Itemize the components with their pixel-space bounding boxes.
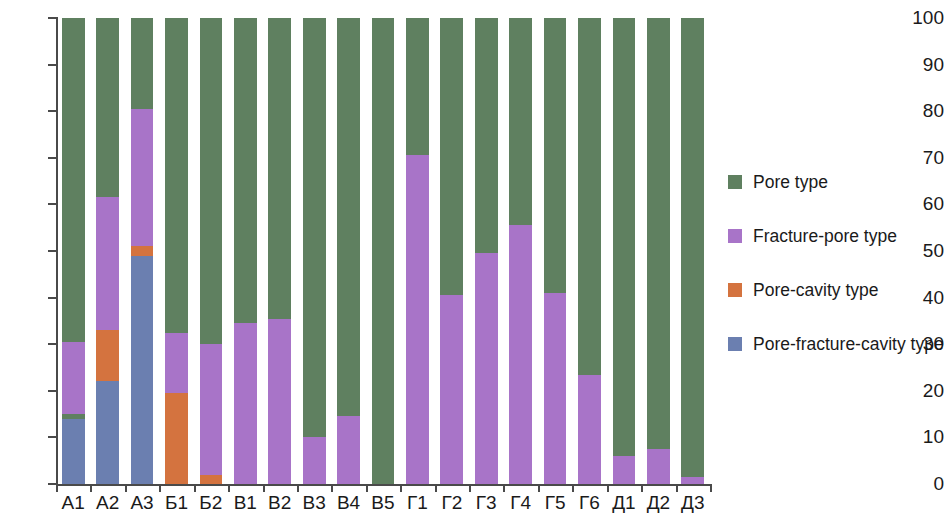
x-axis-tick <box>607 484 609 492</box>
bar-segment-purple <box>131 109 154 246</box>
x-axis-label-А1: А1 <box>56 492 90 514</box>
bar-Г2[interactable] <box>440 18 463 484</box>
bar-segment-green <box>268 18 291 319</box>
bar-Б1[interactable] <box>165 18 188 484</box>
x-axis-tick <box>125 484 127 492</box>
chart-legend: Pore typeFracture-pore typePore-cavity t… <box>728 172 944 354</box>
x-axis-tick <box>228 484 230 492</box>
x-axis-label-В5: В5 <box>366 492 400 514</box>
bar-segment-purple <box>544 293 567 484</box>
bar-А2[interactable] <box>96 18 119 484</box>
bar-segment-purple <box>440 295 463 484</box>
x-axis-tick <box>366 484 368 492</box>
bar-Д1[interactable] <box>613 18 636 484</box>
bar-А1[interactable] <box>62 18 85 484</box>
x-axis-tick <box>641 484 643 492</box>
bar-segment-purple <box>613 456 636 484</box>
legend-swatch-icon <box>728 175 742 189</box>
x-axis-label-А3: А3 <box>125 492 159 514</box>
bar-Д2[interactable] <box>647 18 670 484</box>
x-axis-tick <box>159 484 161 492</box>
x-axis-label-В1: В1 <box>228 492 262 514</box>
y-axis-tick-label: 10 <box>904 427 944 446</box>
bar-В4[interactable] <box>337 18 360 484</box>
x-axis-label-Г3: Г3 <box>469 492 503 514</box>
y-axis-tick-label: 90 <box>904 55 944 74</box>
y-axis-tick-label: 20 <box>904 381 944 400</box>
bar-А3[interactable] <box>131 18 154 484</box>
x-axis-label-Б1: Б1 <box>159 492 193 514</box>
bar-Г5[interactable] <box>544 18 567 484</box>
bar-segment-blue <box>96 381 119 484</box>
legend-item-label: Pore-cavity type <box>753 280 878 300</box>
legend-item[interactable]: Fracture-pore type <box>728 226 944 246</box>
x-axis-label-В4: В4 <box>331 492 365 514</box>
legend-item[interactable]: Pore-cavity type <box>728 280 944 300</box>
x-axis-tick <box>503 484 505 492</box>
x-axis-tick <box>572 484 574 492</box>
x-axis-label-Б2: Б2 <box>194 492 228 514</box>
bar-segment-purple <box>337 416 360 484</box>
y-axis-tick-label: 100 <box>904 8 944 27</box>
bar-segment-orange <box>96 330 119 381</box>
bar-Г1[interactable] <box>406 18 429 484</box>
x-axis-tick <box>90 484 92 492</box>
legend-swatch-icon <box>728 337 742 351</box>
x-axis-tick <box>56 484 58 492</box>
bar-segment-purple <box>165 333 188 394</box>
x-axis-tick <box>676 484 678 492</box>
bar-segment-green <box>372 18 395 484</box>
x-axis-tick <box>469 484 471 492</box>
legend-item[interactable]: Pore type <box>728 172 944 192</box>
bar-Г6[interactable] <box>578 18 601 484</box>
x-axis-label-Г6: Г6 <box>572 492 606 514</box>
bar-segment-orange <box>200 475 223 484</box>
bar-segment-green <box>337 18 360 416</box>
bar-segment-green <box>475 18 498 253</box>
bar-Д3[interactable] <box>681 18 704 484</box>
bar-segment-green <box>613 18 636 456</box>
legend-swatch-icon <box>728 229 742 243</box>
bar-В5[interactable] <box>372 18 395 484</box>
x-axis-tick <box>435 484 437 492</box>
bar-segment-orange <box>131 246 154 255</box>
x-axis-label-В2: В2 <box>263 492 297 514</box>
bar-В1[interactable] <box>234 18 257 484</box>
bar-Б2[interactable] <box>200 18 223 484</box>
x-axis-label-Д2: Д2 <box>641 492 675 514</box>
bar-segment-purple <box>578 375 601 485</box>
bar-В3[interactable] <box>303 18 326 484</box>
bar-segment-purple <box>681 477 704 484</box>
x-axis-line <box>56 484 711 486</box>
bar-segment-green <box>131 18 154 109</box>
bar-segment-green <box>681 18 704 477</box>
x-axis-tick <box>194 484 196 492</box>
bar-segment-green <box>440 18 463 295</box>
legend-item-label: Fracture-pore type <box>753 226 897 246</box>
x-axis-label-Г4: Г4 <box>503 492 537 514</box>
x-axis-label-Д3: Д3 <box>676 492 710 514</box>
bar-В2[interactable] <box>268 18 291 484</box>
bar-segment-green <box>165 18 188 333</box>
legend-swatch-icon <box>728 283 742 297</box>
bar-Г3[interactable] <box>475 18 498 484</box>
bar-segment-purple <box>268 319 291 484</box>
y-axis-tick-label: 80 <box>904 101 944 120</box>
legend-item-label: Pore type <box>753 172 828 192</box>
x-axis-tick <box>263 484 265 492</box>
bar-segment-green <box>200 18 223 344</box>
bar-Г4[interactable] <box>509 18 532 484</box>
bar-segment-green <box>647 18 670 449</box>
bar-segment-purple <box>303 437 326 484</box>
x-axis-tick <box>710 484 712 492</box>
bar-segment-purple <box>200 344 223 474</box>
stacked-bar-chart: 0102030405060708090100 А1А2А3Б1Б2В1В2В3В… <box>0 0 944 516</box>
legend-item[interactable]: Pore-fracture-cavity type <box>728 334 944 354</box>
bar-segment-green <box>578 18 601 374</box>
plot-area <box>56 18 710 484</box>
bar-segment-purple <box>509 225 532 484</box>
y-axis-tick-label: 70 <box>904 148 944 167</box>
x-axis-label-Д1: Д1 <box>607 492 641 514</box>
bar-segment-purple <box>647 449 670 484</box>
x-axis-label-Г2: Г2 <box>435 492 469 514</box>
